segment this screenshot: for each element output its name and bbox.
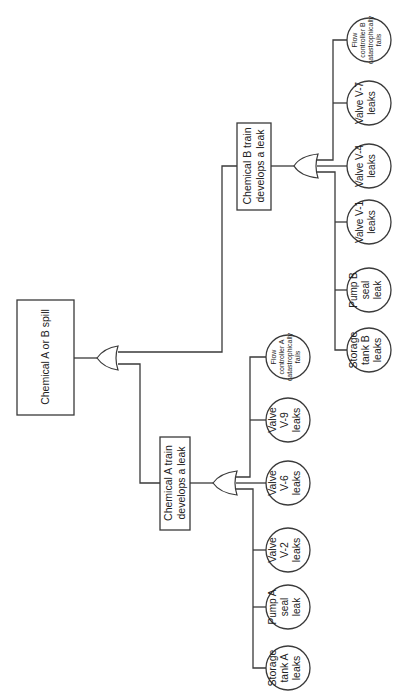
basic-event-pump-a-seal: Pump A seal leak	[266, 585, 310, 629]
svg-text:leaks: leaks	[366, 154, 377, 177]
or-gate-a	[213, 471, 237, 495]
svg-text:leaks: leaks	[371, 338, 383, 363]
svg-text:controller A: controller A	[278, 339, 285, 374]
or-gate-b	[294, 154, 318, 178]
svg-text:leaks: leaks	[366, 91, 377, 114]
svg-text:Valve: Valve	[266, 470, 278, 496]
svg-text:fails: fails	[375, 33, 382, 46]
svg-text:controller B: controller B	[359, 22, 366, 58]
basic-event-pump-b-seal: Pump B seal leak	[347, 268, 391, 312]
svg-text:Valve V-7: Valve V-7	[354, 82, 365, 124]
svg-text:tank B: tank B	[359, 335, 371, 365]
top-event-label: Chemical A or B spill	[39, 309, 51, 405]
basic-event-flow-controller-a: Flow controller A catastrophically fails	[266, 332, 310, 381]
svg-text:leaks: leaks	[366, 210, 377, 233]
svg-text:leaks: leaks	[290, 656, 302, 681]
svg-text:seal: seal	[360, 281, 371, 299]
svg-text:Storage: Storage	[347, 331, 359, 368]
svg-text:V-6: V-6	[278, 475, 290, 491]
svg-text:Chemical A train: Chemical A train	[162, 445, 174, 521]
svg-text:catastrophically: catastrophically	[286, 332, 294, 381]
svg-text:Flow: Flow	[270, 349, 277, 365]
basic-event-storage-tank-b: Storage tank B leaks	[347, 328, 391, 372]
svg-text:develops a leak: develops a leak	[254, 129, 266, 203]
fault-tree-diagram: Chemical A or B spill Chemical A train d…	[0, 0, 413, 700]
svg-text:leaks: leaks	[290, 408, 302, 433]
svg-text:Valve: Valve	[266, 407, 278, 433]
svg-text:Valve V-4: Valve V-4	[354, 145, 365, 187]
basic-event-valve-v2: Valve V-2 leaks	[266, 528, 310, 572]
basic-event-storage-tank-a: Storage tank A leaks	[266, 646, 310, 690]
svg-text:Pump A: Pump A	[267, 589, 278, 624]
svg-text:seal: seal	[279, 598, 290, 616]
basic-event-valve-v6: Valve V-6 leaks	[266, 461, 310, 505]
basic-event-valve-v9: Valve V-9 leaks	[266, 398, 310, 442]
basic-event-valve-v1: Valve V-1 leaks	[347, 200, 391, 244]
svg-text:catastrophically: catastrophically	[367, 15, 375, 64]
svg-text:leaks: leaks	[290, 538, 302, 563]
svg-text:leak: leak	[291, 597, 302, 616]
svg-text:Flow: Flow	[351, 32, 358, 48]
svg-text:Chemical B train: Chemical B train	[241, 127, 253, 204]
basic-event-valve-v7: Valve V-7 leaks	[347, 81, 391, 125]
svg-text:Valve V-1: Valve V-1	[354, 201, 365, 243]
svg-text:leak: leak	[372, 280, 383, 299]
or-gate-top	[97, 346, 118, 370]
basic-event-flow-controller-b: Flow controller B catastrophically fails	[347, 15, 391, 64]
svg-text:Valve: Valve	[266, 537, 278, 563]
svg-text:V-2: V-2	[278, 542, 290, 558]
basic-event-valve-v4: Valve V-4 leaks	[347, 144, 391, 188]
svg-text:fails: fails	[294, 350, 301, 363]
svg-text:tank A: tank A	[278, 653, 290, 682]
svg-text:leaks: leaks	[290, 471, 302, 496]
svg-text:develops a leak: develops a leak	[175, 446, 187, 520]
svg-text:Pump B: Pump B	[348, 272, 359, 308]
svg-text:Storage: Storage	[266, 649, 278, 686]
svg-text:V-9: V-9	[278, 412, 290, 428]
